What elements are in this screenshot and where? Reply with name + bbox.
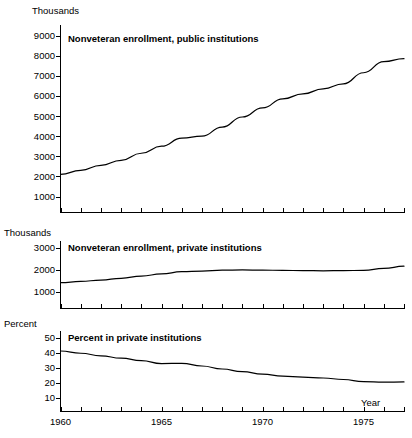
panel-private-enrollment: Thousands Nonveteran enrollment, private… — [4, 227, 405, 309]
panel-public-x-ticks — [62, 208, 405, 213]
x-tick-label: 1965 — [151, 416, 172, 427]
panel-percent-x-tick-labels: 1960196519701975 — [50, 416, 374, 427]
y-tick-label: 2000 — [34, 171, 55, 182]
panel-percent-y-ticks: 1020304050 — [44, 332, 60, 403]
y-tick-label: 1000 — [34, 191, 55, 202]
panel-percent-title: Percent in private institutions — [68, 332, 202, 343]
panel-percent-unit-label: Percent — [4, 318, 37, 329]
panel-percent-x-ticks — [62, 407, 405, 412]
panel-private-x-ticks — [62, 304, 405, 309]
y-tick-label: 4000 — [34, 131, 55, 142]
y-tick-label: 20 — [44, 377, 55, 388]
x-tick-label: 1975 — [353, 416, 374, 427]
y-tick-label: 40 — [44, 347, 55, 358]
panel-percent-series — [61, 351, 405, 382]
x-tick-label: 1960 — [50, 416, 71, 427]
panel-public-title: Nonveteran enrollment, public institutio… — [68, 33, 259, 44]
panel-private-series — [61, 266, 405, 283]
panel-private-title: Nonveteran enrollment, private instituti… — [68, 242, 262, 253]
panel-percent-axes — [61, 331, 405, 412]
panel-private-y-ticks: 100020003000 — [34, 242, 61, 297]
y-tick-label: 3000 — [34, 242, 55, 253]
panel-public-axes — [61, 25, 405, 213]
y-tick-label: 5000 — [34, 111, 55, 122]
panel-public-unit-label: Thousands — [32, 5, 79, 16]
panel-private-unit-label: Thousands — [4, 227, 51, 238]
y-tick-label: 8000 — [34, 50, 55, 61]
panel-public-enrollment: Thousands Nonveteran enrollment, public … — [32, 5, 405, 213]
y-tick-label: 9000 — [34, 30, 55, 41]
y-tick-label: 3000 — [34, 151, 55, 162]
panel-public-y-ticks: 100020003000400050006000700080009000 — [34, 30, 61, 202]
three-panel-enrollment-chart: Thousands Nonveteran enrollment, public … — [0, 0, 412, 438]
y-tick-label: 10 — [44, 392, 55, 403]
y-tick-label: 2000 — [34, 264, 55, 275]
y-tick-label: 50 — [44, 332, 55, 343]
y-tick-label: 7000 — [34, 70, 55, 81]
y-tick-label: 6000 — [34, 90, 55, 101]
y-tick-label: 1000 — [34, 286, 55, 297]
x-tick-label: 1970 — [252, 416, 273, 427]
panel-percent-private: Percent Percent in private institutions … — [4, 318, 405, 427]
panel-public-series — [61, 59, 405, 175]
x-axis-title: Year — [361, 397, 380, 408]
y-tick-label: 30 — [44, 362, 55, 373]
